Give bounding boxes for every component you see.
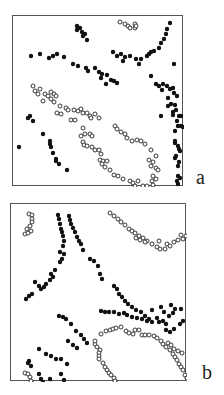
filled-point bbox=[171, 113, 175, 117]
filled-point bbox=[75, 346, 79, 350]
open-point bbox=[123, 132, 127, 136]
filled-point bbox=[167, 314, 171, 318]
open-point bbox=[180, 351, 184, 355]
open-point bbox=[138, 238, 142, 242]
filled-point bbox=[157, 84, 161, 88]
open-point bbox=[119, 325, 123, 329]
filled-point bbox=[125, 313, 129, 317]
filled-point bbox=[98, 272, 102, 276]
open-point bbox=[133, 231, 137, 235]
filled-point bbox=[159, 41, 163, 45]
filled-point bbox=[173, 103, 177, 107]
open-point bbox=[93, 148, 97, 152]
filled-point bbox=[159, 305, 163, 309]
open-point bbox=[30, 213, 34, 217]
open-point bbox=[41, 99, 45, 103]
open-point bbox=[30, 220, 34, 224]
open-point bbox=[36, 92, 40, 96]
filled-point bbox=[119, 52, 123, 56]
filled-point bbox=[134, 308, 138, 312]
filled-point bbox=[86, 69, 90, 73]
open-point bbox=[81, 126, 85, 130]
open-point bbox=[79, 107, 83, 111]
open-point bbox=[55, 111, 59, 115]
open-point bbox=[154, 177, 158, 181]
filled-point bbox=[128, 54, 132, 58]
open-point bbox=[172, 240, 176, 244]
open-point bbox=[90, 134, 94, 138]
filled-point bbox=[33, 280, 37, 284]
open-point bbox=[97, 357, 101, 361]
filled-point bbox=[59, 372, 63, 376]
filled-point bbox=[157, 46, 161, 50]
open-point bbox=[135, 138, 139, 142]
open-point bbox=[181, 368, 185, 372]
open-point bbox=[119, 130, 123, 134]
filled-point bbox=[51, 151, 55, 155]
filled-point bbox=[54, 357, 58, 361]
filled-point bbox=[37, 347, 41, 351]
filled-point bbox=[61, 244, 65, 248]
filled-point bbox=[149, 74, 153, 78]
filled-point bbox=[100, 72, 104, 76]
scatter-plot-a bbox=[13, 16, 184, 187]
open-point bbox=[141, 184, 145, 187]
open-point bbox=[143, 333, 147, 337]
filled-point bbox=[47, 56, 51, 60]
filled-point bbox=[115, 81, 119, 85]
filled-point bbox=[103, 310, 107, 314]
open-point bbox=[58, 104, 62, 108]
filled-point bbox=[55, 52, 59, 56]
filled-point bbox=[139, 57, 143, 61]
open-point bbox=[134, 24, 138, 28]
filled-point bbox=[100, 277, 104, 281]
filled-point bbox=[62, 378, 66, 382]
filled-point bbox=[139, 310, 143, 314]
open-point bbox=[99, 332, 103, 336]
open-point bbox=[29, 379, 33, 382]
open-point bbox=[123, 223, 127, 227]
open-point bbox=[73, 118, 77, 122]
filled-point bbox=[172, 327, 176, 331]
filled-point bbox=[71, 62, 75, 66]
filled-point bbox=[173, 129, 177, 133]
open-point bbox=[112, 173, 116, 177]
filled-point bbox=[130, 315, 134, 319]
filled-point bbox=[57, 217, 61, 221]
open-point bbox=[127, 331, 131, 335]
filled-point bbox=[57, 314, 61, 318]
filled-point bbox=[175, 119, 179, 123]
filled-point bbox=[73, 230, 77, 234]
filled-point bbox=[181, 319, 185, 323]
open-point bbox=[158, 247, 162, 251]
open-point bbox=[184, 234, 187, 238]
filled-point bbox=[120, 295, 124, 299]
open-point bbox=[131, 332, 135, 336]
filled-point bbox=[85, 38, 89, 42]
open-point bbox=[103, 165, 107, 169]
panel-b bbox=[10, 203, 186, 381]
filled-point bbox=[96, 264, 100, 268]
open-point bbox=[108, 168, 112, 172]
filled-point bbox=[28, 114, 32, 118]
filled-point bbox=[53, 268, 57, 272]
filled-point bbox=[58, 250, 62, 254]
filled-point bbox=[179, 114, 183, 118]
open-point bbox=[145, 184, 149, 187]
open-point bbox=[176, 238, 180, 242]
filled-point bbox=[126, 302, 130, 306]
filled-point bbox=[74, 329, 78, 333]
filled-point bbox=[115, 54, 119, 58]
filled-point bbox=[48, 377, 52, 381]
open-point bbox=[164, 345, 168, 349]
filled-point bbox=[83, 32, 87, 36]
filled-point bbox=[164, 328, 168, 332]
filled-point bbox=[117, 312, 121, 316]
filled-point bbox=[71, 343, 75, 347]
open-point bbox=[169, 343, 173, 347]
filled-point bbox=[160, 88, 164, 92]
filled-point bbox=[59, 357, 63, 361]
open-point bbox=[104, 329, 108, 333]
open-point bbox=[121, 177, 125, 181]
filled-point bbox=[49, 354, 53, 358]
